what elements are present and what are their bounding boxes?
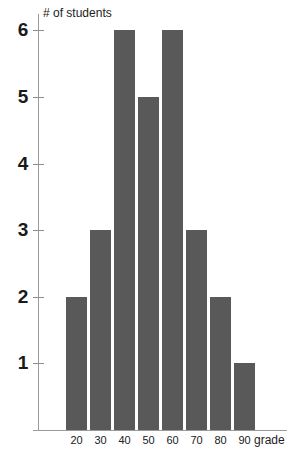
bar xyxy=(186,230,207,430)
bar xyxy=(90,230,111,430)
bars-layer xyxy=(0,0,295,473)
bar xyxy=(138,97,159,430)
x-axis-title: grade xyxy=(254,433,285,447)
bar xyxy=(114,30,135,430)
bar xyxy=(66,297,87,430)
bar xyxy=(162,30,183,430)
bar xyxy=(210,297,231,430)
histogram-chart: # of students 123456 2030405060708090 gr… xyxy=(0,0,295,473)
bar xyxy=(234,363,255,430)
